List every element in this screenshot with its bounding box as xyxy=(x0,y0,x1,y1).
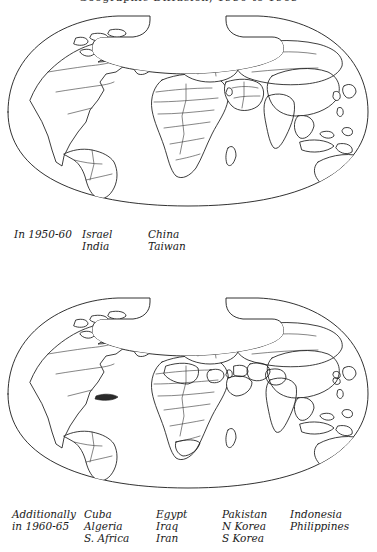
landmass-greenland xyxy=(131,40,160,75)
caption-bottom-group-2: Egypt Iraq Iran xyxy=(156,508,187,545)
landmass-arabia xyxy=(226,376,252,396)
landmasses-bottom xyxy=(30,311,377,483)
landmass-indochina xyxy=(294,115,314,138)
landmass-indochina xyxy=(294,397,314,420)
landmass-australia xyxy=(314,437,375,474)
country-india-shaded xyxy=(266,378,297,432)
caption-top-group-1: Israel India xyxy=(82,228,112,252)
landmass-madagascar xyxy=(226,146,236,165)
caption-line: China xyxy=(148,228,186,240)
country-taiwan-shaded xyxy=(337,107,343,116)
caption-bottom-period: Additionally in 1960-65 xyxy=(12,508,76,532)
caption-line: S. Africa xyxy=(84,532,129,544)
caption-bottom: Additionally in 1960-65 Cuba Algeria S. … xyxy=(0,508,377,552)
landmass-south-america xyxy=(64,149,117,198)
landmass-russia xyxy=(234,41,343,85)
caption-bottom-group-1: Cuba Algeria S. Africa xyxy=(84,508,129,545)
caption-top-group-2: China Taiwan xyxy=(148,228,186,252)
caption-line: India xyxy=(82,240,112,252)
landmass-africa xyxy=(151,74,228,178)
caption-line: S Korea xyxy=(222,532,267,544)
landmass-iceland xyxy=(167,61,178,67)
landmass-north-america xyxy=(30,324,124,448)
landmass-africa xyxy=(151,356,228,460)
caption-line: Egypt xyxy=(156,508,187,520)
landmass-madagascar xyxy=(226,428,236,447)
arctic-islands-bottom xyxy=(74,311,128,338)
country-taiwan-shaded xyxy=(337,389,343,398)
arctic-islands-top xyxy=(74,29,128,56)
landmass-iceland xyxy=(167,343,178,349)
landmass-south-america xyxy=(64,431,117,480)
caption-line: In 1950-60 xyxy=(14,228,72,240)
country-philippines-shaded xyxy=(342,409,353,417)
country-india-shaded xyxy=(264,94,295,148)
caption-line: Israel xyxy=(82,228,112,240)
caption-line: Cuba xyxy=(84,508,129,520)
caption-line: Iran xyxy=(156,532,187,544)
landmass-north-america xyxy=(30,42,124,166)
caption-line: Pakistan xyxy=(222,508,267,520)
caption-line: Additionally xyxy=(12,508,76,520)
landmass-greenland xyxy=(131,322,160,357)
landmass-japan xyxy=(343,366,356,380)
country-iraq-shaded xyxy=(234,365,248,376)
caption-line: Algeria xyxy=(84,520,129,532)
landmass-korea xyxy=(333,91,340,100)
landmass-new-zealand xyxy=(370,191,377,200)
landmasses-top xyxy=(30,29,377,201)
caption-line: N Korea xyxy=(222,520,267,532)
world-map-panel-top xyxy=(0,4,377,216)
caption-bottom-group-4: Indonesia Philippines xyxy=(290,508,349,532)
caption-line: Taiwan xyxy=(148,240,186,252)
landmass-new-zealand xyxy=(370,473,377,482)
landmass-australia xyxy=(314,155,375,192)
caption-line: Iraq xyxy=(156,520,187,532)
caption-top: In 1950-60 Israel India China Taiwan xyxy=(0,228,377,270)
world-map-panel-bottom xyxy=(0,286,377,498)
caption-line: in 1960-65 xyxy=(12,520,76,532)
landmass-russia xyxy=(234,323,343,367)
caption-top-period: In 1950-60 xyxy=(14,228,72,240)
landmass-japan xyxy=(343,84,356,98)
caption-line: Indonesia xyxy=(290,508,349,520)
country-cuba-shaded xyxy=(95,394,118,400)
caption-bottom-group-3: Pakistan N Korea S Korea xyxy=(222,508,267,545)
caption-line: Philippines xyxy=(290,520,349,532)
